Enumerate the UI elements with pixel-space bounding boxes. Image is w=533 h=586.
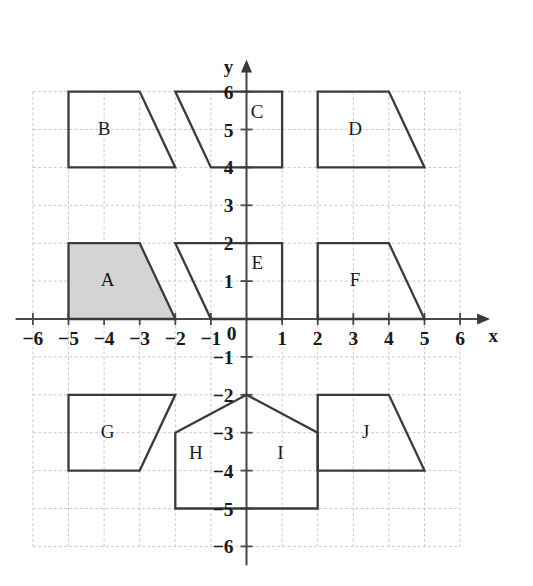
y-tick-label: 6: [224, 82, 234, 103]
x-tick-label: 6: [455, 328, 465, 349]
x-axis-label: x: [488, 325, 498, 346]
x-tick-label: 5: [420, 328, 430, 349]
y-tick-label: −6: [213, 536, 234, 557]
x-tick-label: −3: [129, 328, 150, 349]
shape-label-h: H: [189, 442, 203, 463]
y-tick-label: 4: [224, 157, 234, 178]
x-tick-label: 2: [313, 328, 323, 349]
shape-label-f: F: [350, 269, 361, 290]
y-tick-label: −2: [213, 385, 234, 406]
shape-label-c: C: [251, 101, 264, 122]
x-tick-label: 3: [348, 328, 358, 349]
y-axis-label: y: [224, 56, 234, 77]
x-tick-label: −5: [58, 328, 79, 349]
axis-names-layer: xy: [224, 56, 499, 346]
x-tick-label: −2: [165, 328, 186, 349]
y-tick-label: −3: [213, 423, 234, 444]
shape-label-g: G: [101, 421, 115, 442]
y-tick-label: −5: [213, 499, 234, 520]
y-tick-label: −1: [213, 347, 234, 368]
shape-label-i: I: [277, 442, 283, 463]
y-tick-label: 3: [224, 195, 234, 216]
coordinate-plane-figure: ABCDEFGJHI −6−5−4−3−2−1123456654321−1−2−…: [0, 0, 533, 586]
x-tick-label: 4: [384, 328, 394, 349]
y-axis-arrowhead: [241, 59, 252, 72]
x-tick-label: 1: [277, 328, 287, 349]
x-axis-arrowhead: [477, 314, 490, 325]
coordinate-plane-svg: ABCDEFGJHI −6−5−4−3−2−1123456654321−1−2−…: [0, 0, 533, 586]
y-tick-label: 5: [224, 120, 234, 141]
y-tick-label: 1: [224, 271, 234, 292]
origin-label: 0: [227, 323, 237, 344]
shape-label-e: E: [251, 252, 263, 273]
shape-label-j: J: [362, 421, 369, 442]
x-tick-label: −1: [200, 328, 221, 349]
shape-label-b: B: [98, 118, 111, 139]
y-tick-label: 2: [224, 233, 234, 254]
y-tick-label: −4: [213, 461, 234, 482]
x-tick-label: −4: [94, 328, 115, 349]
shape-label-a: A: [101, 269, 115, 290]
x-tick-label: −6: [22, 328, 43, 349]
shape-label-d: D: [348, 118, 362, 139]
